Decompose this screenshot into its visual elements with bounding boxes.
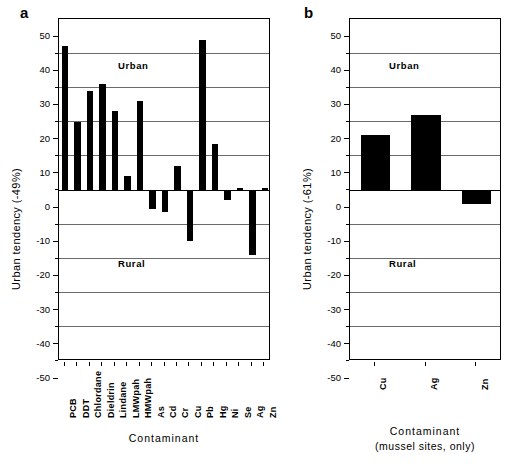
panel-a-y-axis: 50403020100-10-20-30-40-50 [26,18,58,360]
panel-b-plot-area [349,18,501,360]
y-tick-label: 20 [39,133,50,144]
bar-ni [224,190,230,200]
x-tick-label-pcb: PCB [68,398,78,418]
x-tick-mark [226,362,227,366]
x-tick-mark [164,362,165,366]
bar-cu [187,190,193,241]
bar-ag [249,190,255,255]
bar-dieldrin [99,84,105,190]
x-tick-label-as: As [156,406,166,418]
y-tick-label: -40 [36,338,50,349]
y-tick-label: -10 [327,235,341,246]
panel-a-urban-label: Urban [118,60,148,71]
x-tick-label-lindane: Lindane [118,381,128,418]
bar-zn [462,190,491,204]
x-tick-mark [188,362,189,366]
panel-a-y-axis-title: Urban tendency (-49%) [10,168,22,290]
bar-hmwpah [137,101,143,190]
x-tick-mark [64,362,65,366]
x-tick-mark [101,362,102,366]
bar-cd [162,190,168,212]
y-tick-label: -20 [36,269,50,280]
y-tick-label: -10 [36,235,50,246]
bar-zn [262,188,268,190]
x-tick-label-zn: Zn [480,378,490,390]
x-tick-label-se: Se [243,406,253,418]
panel-b-x-axis-subtitle: (mussel sites, only) [325,440,525,452]
y-tick-label: 50 [39,30,50,41]
y-tick-label: 10 [330,167,341,178]
bar-pb [199,40,205,190]
panel-a: a Urban tendency (-49%) 50403020100-10-2… [0,0,285,473]
y-tick-label: -50 [36,372,50,383]
x-tick-mark [89,362,90,366]
x-tick-mark [238,362,239,366]
x-tick-mark [114,362,115,366]
gridline [350,292,500,293]
panel-b-y-axis-title: Urban tendency (-61%) [301,168,313,290]
y-tick-label: 0 [336,201,341,212]
bar-hg [212,144,218,190]
bar-ddt [74,122,80,190]
figure-root: a Urban tendency (-49%) 50403020100-10-2… [0,0,525,473]
y-tick-label: -30 [36,304,50,315]
x-tick-label-hmwpah: HMWpah [143,378,153,418]
x-tick-label-chlordane: Chlordane [93,371,103,418]
x-tick-mark [139,362,140,366]
y-tick-label: 50 [330,30,341,41]
x-tick-mark [251,362,252,366]
x-tick-mark [213,362,214,366]
panel-b-letter: b [304,4,313,21]
x-tick-mark [201,362,202,366]
x-tick-mark [76,362,77,366]
y-tick-label: -50 [327,372,341,383]
gridline [59,292,269,293]
panel-a-x-axis-title: Contaminant [58,432,270,444]
x-tick-label-dieldrin: Dieldrin [106,382,116,418]
gridline [350,326,500,327]
bar-se [237,188,243,190]
panel-b-y-axis: 50403020100-10-20-30-40-50 [317,18,349,360]
y-tick-label: 30 [330,98,341,109]
panel-a-x-tick-labels: PCBDDTChlordaneDieldrinLindaneLMWpahHMWp… [58,362,270,422]
y-tick-label: -40 [327,338,341,349]
panel-b-rural-label: Rural [389,258,416,269]
panel-b-urban-label: Urban [389,60,419,71]
y-tick-label: 10 [39,167,50,178]
x-tick-label-cr: Cr [180,407,190,418]
x-tick-label-cd: Cd [168,405,178,418]
x-tick-label-hg: Hg [218,405,228,418]
gridline [350,53,500,54]
gridline [59,87,269,88]
bar-as [149,190,155,209]
x-tick-label-cu: Cu [193,405,203,418]
bar-ag [411,115,440,190]
gridline [350,258,500,259]
gridline [59,258,269,259]
gridline [350,224,500,225]
y-tick-label: 30 [39,98,50,109]
x-tick-label-zn: Zn [268,406,278,418]
x-tick-label-ag: Ag [255,405,265,418]
x-tick-mark [263,362,264,366]
bar-lmwpah [124,176,130,190]
y-tick-label: 40 [39,64,50,75]
x-tick-label-lmwpah: LMWpah [131,379,141,418]
y-tick-label: 20 [330,133,341,144]
gridline [59,224,269,225]
panel-b: b Urban tendency (-61%) 50403020100-10-2… [285,0,525,473]
x-tick-mark [126,362,127,366]
panel-a-rural-label: Rural [118,258,145,269]
gridline [59,53,269,54]
panel-b-x-axis-title: Contaminant [325,425,525,437]
panel-b-x-tick-labels: CuAgZn [349,362,501,402]
gridline [59,326,269,327]
x-tick-label-ag: Ag [429,377,439,390]
bar-cu [361,135,390,190]
bar-chlordane [87,91,93,190]
x-tick-label-cu: Cu [378,377,388,390]
y-tick-label: 0 [45,201,50,212]
x-tick-label-ddt: DDT [81,399,91,418]
y-tick-label: -30 [327,304,341,315]
panel-a-plot-area [58,18,270,360]
